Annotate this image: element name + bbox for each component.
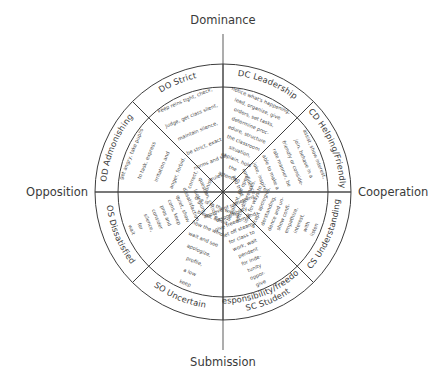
description-line: wait	[127, 224, 137, 236]
description-line: for	[137, 222, 146, 232]
wheel-diagram: DC LeadershipCD Helping/FriendlyCS Under…	[0, 0, 447, 376]
sector-description-do: keep reins tight, check,judge, get class…	[157, 86, 228, 182]
interpersonal-teacher-behavior-wheel: DC LeadershipCD Helping/FriendlyCS Under…	[0, 0, 447, 376]
description-line: keep	[178, 278, 192, 289]
description-line: correct,	[186, 169, 199, 189]
sector-label-os: OS Dissatisfied	[105, 204, 138, 266]
sector-label-group: DC LeadershipCD Helping/FriendlyCS Under…	[0, 0, 348, 313]
description-line: irritation and	[153, 150, 171, 182]
axis-label-dominance: Dominance	[190, 13, 255, 27]
description-line: anger, forbid,	[168, 156, 188, 190]
description-line: the	[228, 164, 238, 173]
sector-label-do: DO Strict	[157, 70, 198, 94]
description-line: rules	[210, 171, 224, 181]
axis-label-cooperation: Cooperation	[358, 185, 428, 199]
sector-description-od: get angry, take pupilsto task, expressir…	[118, 127, 215, 195]
axis-label-opposition: Opposition	[26, 185, 88, 199]
description-line: a low	[183, 267, 198, 278]
description-line: be strict, exact	[185, 136, 222, 156]
sector-dividers	[95, 64, 351, 320]
axis-label-submission: Submission	[190, 355, 256, 369]
sector-label-so: SO Uncertain	[152, 280, 206, 310]
description-line: profile,	[185, 255, 204, 268]
